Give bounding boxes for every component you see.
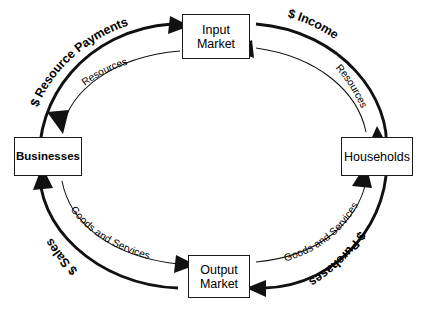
node-businesses-line1: Businesses — [16, 150, 80, 163]
label-resources-left: Resources — [79, 56, 128, 88]
arrowhead-resources-left — [47, 110, 69, 134]
arc-sales — [40, 166, 178, 288]
node-input-market-line1: Input — [202, 23, 230, 37]
circular-flow-diagram: $ Resource Payments $ Income $ Purchases… — [0, 0, 424, 309]
node-output-market: Output Market — [188, 255, 250, 298]
node-households-line1: Households — [344, 150, 410, 164]
arc-income — [256, 24, 386, 152]
node-businesses: Businesses — [14, 137, 82, 176]
node-households: Households — [341, 137, 413, 176]
label-income: $ Income — [286, 7, 341, 42]
node-output-market-line1: Output — [200, 263, 238, 277]
arc-resources-right — [256, 48, 366, 132]
node-input-market: Input Market — [182, 14, 250, 59]
node-input-market-line2: Market — [197, 37, 235, 51]
label-sales: $ Sales — [42, 236, 80, 278]
node-output-market-line2: Market — [200, 277, 238, 291]
